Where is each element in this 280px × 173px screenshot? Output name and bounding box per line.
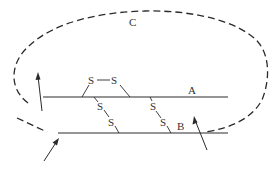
- sulfur-label: S: [97, 100, 103, 112]
- loop-c-dashed: [14, 11, 268, 132]
- arrow-icon-left: [36, 72, 43, 111]
- interchain-bond-1c: [115, 126, 119, 133]
- chain-a-label: A: [188, 84, 196, 96]
- intrachain-bond-left: [82, 85, 89, 97]
- sulfur-label: S: [88, 74, 94, 86]
- sulfur-label: S: [150, 100, 156, 112]
- chain-b-label: B: [177, 120, 184, 132]
- interchain-bond-2c: [167, 126, 171, 133]
- sulfur-label: S: [160, 116, 166, 128]
- loop-c-label: C: [129, 16, 136, 28]
- disulfide-diagram: S S S S S S A B C: [0, 0, 280, 173]
- sulfur-label: S: [108, 116, 114, 128]
- loop-c-dashed-tail: [17, 118, 47, 132]
- sulfur-label: S: [111, 74, 117, 86]
- intrachain-bond-right: [120, 85, 130, 97]
- arrow-icon-bottom-left: [44, 138, 59, 161]
